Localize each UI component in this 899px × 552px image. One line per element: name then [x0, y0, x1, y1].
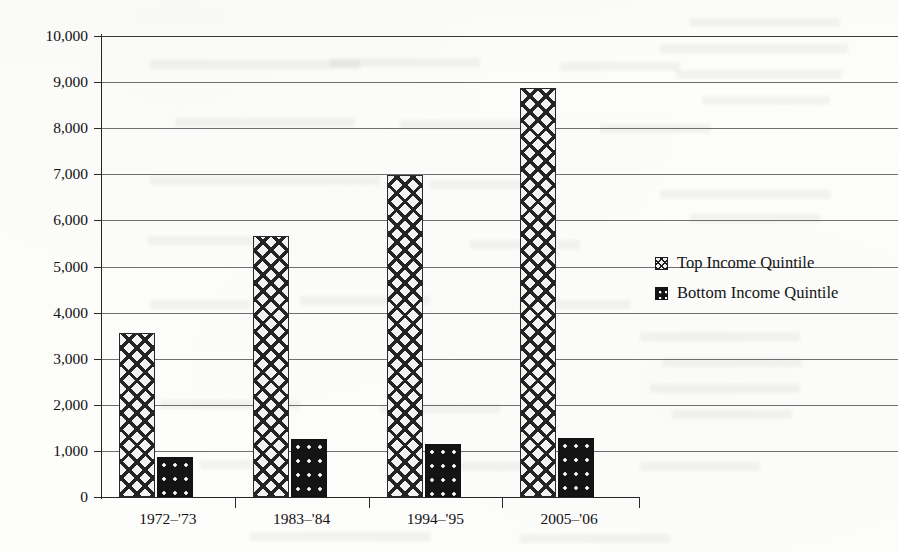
y-axis-tick-label: 10,000	[2, 28, 88, 44]
y-axis-tick-label: 0	[2, 489, 88, 505]
y-axis-tick-label: 7,000	[2, 166, 88, 182]
bar-bottom-income-quintile	[558, 438, 594, 497]
y-axis-tick-label: 2,000	[2, 397, 88, 413]
bar-bottom-income-quintile	[425, 444, 461, 497]
x-axis-category-label: 2005–'06	[502, 510, 636, 528]
y-axis-tick-label: 3,000	[2, 351, 88, 367]
legend-item-label: Top Income Quintile	[677, 253, 814, 273]
x-axis-separator	[369, 497, 370, 508]
y-axis-tick-label: 6,000	[2, 212, 88, 228]
bar-top-income-quintile	[520, 88, 556, 497]
bar-bottom-income-quintile	[291, 439, 327, 497]
x-axis-separator	[235, 497, 236, 508]
y-axis-tick-label: 5,000	[2, 259, 88, 275]
bar-top-income-quintile	[119, 333, 155, 497]
bar-chart: 01,0002,0003,0004,0005,0006,0007,0008,00…	[0, 0, 899, 552]
y-axis-tick-label: 8,000	[2, 120, 88, 136]
x-axis-category-label: 1972–'73	[101, 510, 235, 528]
y-axis-tick-label: 4,000	[2, 305, 88, 321]
y-axis-tick-label: 9,000	[2, 74, 88, 90]
bar-bottom-income-quintile	[157, 457, 193, 497]
legend-item[interactable]: Bottom Income Quintile	[655, 278, 838, 308]
dotted-swatch-icon	[655, 287, 668, 300]
x-axis-separator	[502, 497, 503, 508]
chart-legend: Top Income QuintileBottom Income Quintil…	[655, 248, 838, 308]
y-axis-tick-label: 1,000	[2, 443, 88, 459]
x-axis-category-label: 1983–'84	[235, 510, 369, 528]
legend-item-label: Bottom Income Quintile	[677, 283, 838, 303]
crosshatch-swatch-icon	[655, 257, 668, 270]
bar-top-income-quintile	[253, 236, 289, 497]
x-axis-end-tick	[639, 497, 640, 508]
legend-item[interactable]: Top Income Quintile	[655, 248, 838, 278]
x-axis-category-label: 1994–'95	[369, 510, 503, 528]
scanned-page: 01,0002,0003,0004,0005,0006,0007,0008,00…	[0, 0, 899, 552]
plot-area	[101, 36, 636, 497]
bar-top-income-quintile	[387, 175, 423, 497]
